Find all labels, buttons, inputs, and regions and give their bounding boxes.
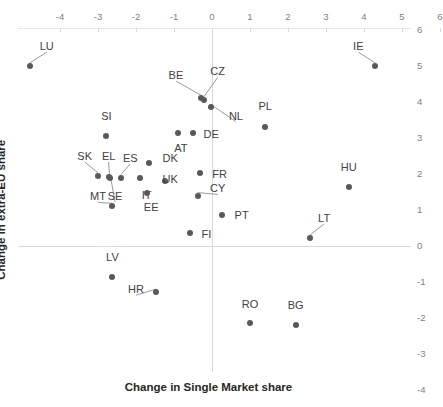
x-tick-label: -1: [170, 12, 178, 22]
y-tick-label: -2: [417, 313, 425, 323]
data-point-cy[interactable]: [195, 193, 201, 199]
data-point-es[interactable]: [118, 175, 124, 181]
data-point-dk[interactable]: [146, 160, 152, 166]
y-tick-label: -3: [417, 349, 425, 359]
data-label-sk: SK: [77, 151, 92, 162]
y-tick-label: 6: [417, 25, 422, 35]
y-tick-label: -1: [417, 277, 425, 287]
data-label-fr: FR: [212, 169, 227, 180]
x-tick-label: 4: [361, 12, 366, 22]
data-label-nl: NL: [229, 110, 243, 121]
x-tick-mark: [60, 28, 61, 32]
y-tick-label: 0: [417, 241, 422, 251]
y-tick-label: 5: [417, 61, 422, 71]
x-tick-label: 6: [437, 12, 442, 22]
data-label-dk: DK: [163, 152, 178, 163]
y-zero-axis-line: [212, 28, 213, 372]
data-point-fr[interactable]: [197, 170, 203, 176]
x-axis-line: [18, 28, 411, 29]
data-point-ro[interactable]: [247, 320, 253, 326]
data-point-pl[interactable]: [262, 124, 268, 130]
data-label-cz: CZ: [210, 66, 225, 77]
data-label-uk: UK: [163, 174, 178, 185]
x-tick-mark: [440, 28, 441, 32]
data-label-hr: HR: [128, 284, 144, 295]
x-tick-label: -3: [94, 12, 102, 22]
data-point-pt[interactable]: [219, 212, 225, 218]
data-point-at[interactable]: [175, 130, 181, 136]
data-point-lv[interactable]: [109, 274, 115, 280]
y-tick-label: 1: [417, 205, 422, 215]
x-tick-label: -2: [132, 12, 140, 22]
x-tick-mark: [98, 28, 99, 32]
data-label-bg: BG: [288, 300, 304, 311]
data-label-ee: EE: [144, 202, 159, 213]
data-point-ie[interactable]: [372, 63, 378, 69]
data-label-hu: HU: [341, 161, 357, 172]
x-tick-mark: [136, 28, 137, 32]
data-label-pt: PT: [235, 210, 249, 221]
x-tick-mark: [174, 28, 175, 32]
data-label-ro: RO: [242, 298, 259, 309]
data-point-hu[interactable]: [346, 184, 352, 190]
y-tick-label: 2: [417, 169, 422, 179]
data-label-mt: MT: [90, 191, 106, 202]
data-point-ee[interactable]: [144, 190, 150, 196]
data-point-nl[interactable]: [208, 104, 214, 110]
y-tick-label: -4: [417, 385, 425, 395]
data-point-de[interactable]: [190, 130, 196, 136]
data-label-lt: LT: [318, 212, 330, 223]
data-point-sk[interactable]: [95, 173, 101, 179]
y-axis-title: Change in extra-EU share: [0, 139, 8, 279]
data-point-si[interactable]: [103, 133, 109, 139]
x-tick-mark: [326, 28, 327, 32]
x-tick-label: 1: [247, 12, 252, 22]
x-tick-mark: [364, 28, 365, 32]
data-point-lt[interactable]: [307, 235, 313, 241]
data-label-cy: CY: [210, 183, 225, 194]
x-zero-axis-line: [18, 246, 411, 247]
x-tick-label: 3: [323, 12, 328, 22]
data-label-es: ES: [123, 152, 138, 163]
data-label-fi: FI: [201, 229, 211, 240]
x-tick-mark: [250, 28, 251, 32]
y-tick-label: 4: [417, 97, 422, 107]
x-tick-mark: [212, 28, 213, 32]
data-point-se[interactable]: [107, 175, 113, 181]
x-tick-label: -4: [56, 12, 64, 22]
data-point-it[interactable]: [137, 175, 143, 181]
data-label-se: SE: [108, 191, 123, 202]
data-label-de: DE: [204, 128, 219, 139]
data-point-hr[interactable]: [153, 289, 159, 295]
data-point-lu[interactable]: [27, 63, 33, 69]
x-tick-mark: [288, 28, 289, 32]
data-point-bg[interactable]: [293, 322, 299, 328]
data-label-el: EL: [102, 151, 115, 162]
data-label-be: BE: [169, 70, 184, 81]
x-tick-label: 2: [285, 12, 290, 22]
data-point-mt[interactable]: [109, 203, 115, 209]
x-tick-label: 0: [209, 12, 214, 22]
data-label-lv: LV: [106, 251, 119, 262]
data-point-fi[interactable]: [187, 230, 193, 236]
data-label-pl: PL: [258, 100, 271, 111]
x-tick-label: 5: [399, 12, 404, 22]
data-point-cz[interactable]: [201, 97, 207, 103]
data-label-lu: LU: [40, 41, 54, 52]
y-tick-label: 3: [417, 133, 422, 143]
x-axis-title: Change in Single Market share: [125, 382, 292, 394]
x-tick-mark: [402, 28, 403, 32]
data-label-ie: IE: [353, 41, 363, 52]
data-label-si: SI: [101, 110, 111, 121]
